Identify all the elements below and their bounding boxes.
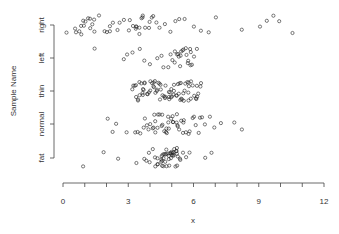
- data-point-thin: [141, 93, 144, 96]
- data-point-thin: [158, 98, 161, 101]
- data-point-fat: [145, 159, 148, 162]
- x-axis: 036912: [61, 183, 329, 206]
- data-point-thin: [131, 88, 134, 91]
- data-point-thin: [164, 84, 167, 87]
- data-point-thin: [199, 82, 202, 85]
- data-point-left: [185, 53, 188, 56]
- data-point-normal: [152, 126, 155, 129]
- data-point-normal: [154, 120, 157, 123]
- data-point-right: [118, 21, 121, 24]
- data-point-right: [138, 32, 141, 35]
- y-axis: fatnormalthinleftright: [37, 16, 54, 162]
- data-point-right: [74, 31, 77, 34]
- data-point-normal: [149, 123, 152, 126]
- x-tick-label: 12: [320, 197, 329, 206]
- data-point-left: [173, 61, 176, 64]
- data-point-normal: [142, 126, 145, 129]
- data-point-right: [127, 29, 130, 32]
- data-point-thin: [152, 85, 155, 88]
- data-point-right: [265, 19, 268, 22]
- data-point-normal: [154, 131, 157, 134]
- data-point-normal: [178, 128, 181, 131]
- data-point-normal: [167, 121, 170, 124]
- data-point-right: [178, 18, 181, 21]
- data-point-right: [91, 23, 94, 26]
- data-point-right: [93, 30, 96, 33]
- data-point-right: [291, 31, 294, 34]
- data-point-fat: [204, 156, 207, 159]
- data-point-right: [169, 30, 172, 33]
- data-point-right: [144, 26, 147, 29]
- data-point-right: [199, 29, 202, 32]
- data-points: [65, 14, 294, 168]
- data-point-thin: [159, 88, 162, 91]
- data-point-normal: [167, 115, 170, 118]
- data-point-right: [240, 28, 243, 31]
- data-point-thin: [189, 97, 192, 100]
- data-point-left: [93, 47, 96, 50]
- data-point-thin: [197, 92, 200, 95]
- data-point-normal: [143, 117, 146, 120]
- data-point-fat: [164, 160, 167, 163]
- data-point-left: [167, 66, 170, 69]
- data-point-fat: [151, 148, 154, 151]
- data-point-right: [108, 30, 111, 33]
- data-point-normal: [145, 124, 148, 127]
- data-point-thin: [135, 95, 138, 98]
- data-point-thin: [172, 83, 175, 86]
- data-point-fat: [210, 151, 213, 154]
- data-point-right: [108, 25, 111, 28]
- data-point-normal: [194, 124, 197, 127]
- data-point-normal: [106, 117, 109, 120]
- data-point-normal: [240, 128, 243, 131]
- data-point-right: [158, 26, 161, 29]
- data-point-thin: [199, 85, 202, 88]
- data-point-right: [147, 26, 150, 29]
- data-point-left: [131, 51, 134, 54]
- data-point-right: [78, 30, 81, 33]
- data-point-thin: [187, 85, 190, 88]
- data-point-right: [88, 17, 91, 20]
- data-point-right: [258, 25, 261, 28]
- data-point-normal: [125, 131, 128, 134]
- data-point-fat: [188, 151, 191, 154]
- data-point-right: [74, 27, 77, 30]
- data-point-right: [131, 24, 134, 27]
- x-tick-label: 6: [191, 197, 196, 206]
- data-point-normal: [219, 122, 222, 125]
- data-point-normal: [200, 116, 203, 119]
- data-point-fat: [135, 161, 138, 164]
- data-point-normal: [171, 115, 174, 118]
- y-tick-label: fat: [37, 153, 46, 163]
- data-point-right: [183, 17, 186, 20]
- data-point-right: [80, 33, 83, 36]
- data-point-normal: [156, 126, 159, 129]
- data-point-fat: [165, 148, 168, 151]
- data-point-normal: [203, 123, 206, 126]
- data-point-fat: [143, 157, 146, 160]
- data-point-right: [97, 14, 100, 17]
- data-point-right: [111, 21, 114, 24]
- data-point-fat: [102, 151, 105, 154]
- data-point-right: [122, 18, 125, 21]
- data-point-normal: [172, 121, 175, 124]
- data-point-right: [207, 31, 210, 34]
- data-point-left: [195, 47, 198, 50]
- data-point-normal: [115, 122, 118, 125]
- data-point-right: [93, 18, 96, 21]
- data-point-left: [173, 50, 176, 53]
- data-point-left: [143, 59, 146, 62]
- x-tick-label: 9: [257, 197, 262, 206]
- data-point-thin: [187, 91, 190, 94]
- data-point-left: [160, 54, 163, 57]
- data-point-thin: [182, 92, 185, 95]
- data-point-right: [214, 16, 217, 19]
- data-point-right: [163, 23, 166, 26]
- data-point-normal: [139, 132, 142, 135]
- data-point-left: [138, 47, 141, 50]
- data-point-left: [189, 47, 192, 50]
- data-point-thin: [138, 94, 141, 97]
- strip-chart: fatnormalthinleftright 036912 x Sample N…: [0, 0, 339, 234]
- data-point-fat: [148, 161, 151, 164]
- data-point-thin: [177, 92, 180, 95]
